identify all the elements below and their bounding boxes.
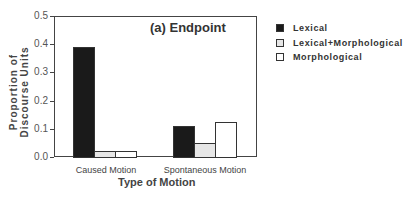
bar [94,151,116,158]
bar [194,143,216,158]
legend-label: Lexical [293,23,328,33]
bar [173,126,195,158]
legend-swatch [276,53,284,61]
y-tick-label: 0.2 [28,96,48,106]
x-axis-label: Type of Motion [118,176,195,188]
legend-swatch [276,39,284,47]
y-tick-label: 0.4 [28,39,48,49]
legend-item: Morphological [276,51,362,63]
bar [115,151,137,158]
y-tick-label: 0.3 [28,67,48,77]
y-tick-label: 0.0 [28,152,48,162]
y-tick [50,72,54,73]
y-tick-label: 0.5 [28,11,48,21]
y-axis-label: Proportion of Discourse Units [8,27,30,157]
y-tick-label: 0.1 [28,124,48,134]
category-label: Spontaneous Motion [160,165,250,175]
y-tick [50,44,54,45]
legend-item: Lexical [276,22,328,34]
legend-item: Lexical+Morphological [276,37,403,49]
y-tick [50,16,54,17]
chart-title: (a) Endpoint [150,20,226,35]
y-tick [50,129,54,130]
legend-label: Morphological [293,52,362,62]
y-tick [50,101,54,102]
category-label: Caused Motion [66,165,146,175]
bar [215,122,237,158]
legend-label: Lexical+Morphological [293,38,403,48]
bar [73,47,95,158]
legend-swatch [276,24,284,32]
y-tick [50,157,54,158]
